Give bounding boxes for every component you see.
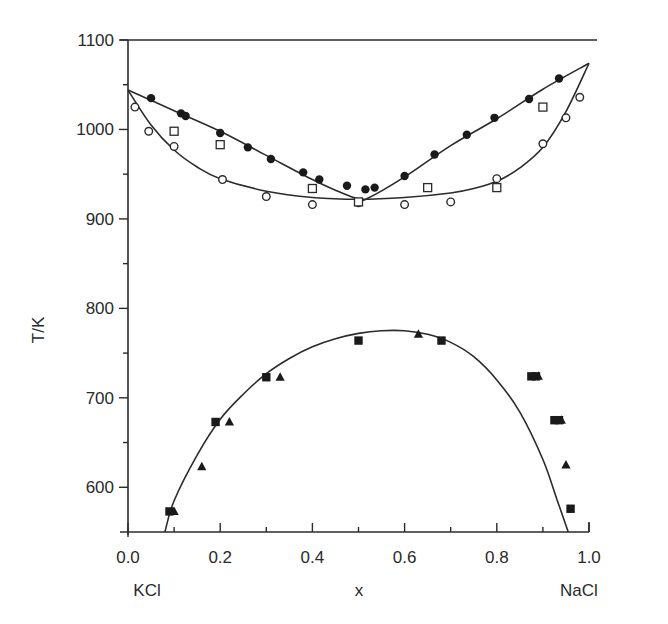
liquidus-line	[128, 63, 589, 200]
filled-square-marker	[211, 418, 219, 426]
open-circle-marker	[493, 175, 501, 183]
filled-circle-marker	[181, 112, 189, 120]
open-circle-marker	[219, 176, 227, 184]
open-square-marker	[170, 127, 178, 135]
filled-triangle-marker	[225, 417, 234, 426]
filled-triangle-marker	[561, 460, 570, 469]
open-circle-marker	[576, 93, 584, 101]
filled-triangle-marker	[197, 462, 206, 471]
filled-circle-marker	[315, 175, 323, 183]
open-square-marker	[493, 184, 501, 192]
y-tick-label: 800	[86, 299, 114, 318]
filled-triangle-marker	[276, 372, 285, 381]
filled-circle-marker	[370, 183, 378, 191]
data-markers	[131, 74, 583, 515]
filled-circle-marker	[343, 182, 351, 190]
x-end-label-kcl: KCl	[133, 581, 160, 600]
y-tick-label: 600	[86, 478, 114, 497]
open-square-marker	[216, 141, 224, 149]
open-circle-marker	[562, 114, 570, 122]
miscibility-gap-line	[165, 330, 568, 532]
filled-circle-marker	[299, 168, 307, 176]
y-tick-label: 700	[86, 389, 114, 408]
filled-square-marker	[262, 373, 270, 381]
filled-circle-marker	[147, 94, 155, 102]
open-circle-marker	[170, 143, 178, 151]
open-square-marker	[308, 184, 316, 192]
y-tick-label: 900	[86, 210, 114, 229]
open-circle-marker	[309, 201, 317, 209]
filled-circle-marker	[555, 74, 563, 82]
open-circle-marker	[131, 103, 139, 111]
x-tick-label: 0.2	[208, 548, 232, 567]
open-circle-marker	[401, 201, 409, 209]
filled-circle-marker	[216, 129, 224, 137]
filled-circle-marker	[400, 172, 408, 180]
y-tick-label: 1100	[77, 31, 114, 50]
fit-curves	[128, 63, 589, 532]
filled-circle-marker	[463, 131, 471, 139]
filled-circle-marker	[267, 155, 275, 163]
phase-diagram-chart: 600700800900100011000.00.20.40.60.81.0 T…	[0, 0, 668, 624]
axes: 600700800900100011000.00.20.40.60.81.0	[76, 31, 601, 567]
y-tick-label: 1000	[76, 120, 114, 139]
x-end-label-nacl: NaCl	[560, 581, 598, 600]
x-axis-label: x	[355, 581, 364, 600]
open-square-marker	[355, 198, 363, 206]
x-tick-label: 0.8	[485, 548, 509, 567]
filled-circle-marker	[361, 185, 369, 193]
solidus-line	[128, 63, 589, 199]
filled-square-marker	[566, 505, 574, 513]
filled-square-marker	[354, 336, 362, 344]
open-circle-marker	[145, 127, 153, 135]
y-axis-label: T/K	[29, 316, 48, 343]
x-tick-label: 1.0	[577, 548, 601, 567]
open-square-marker	[424, 184, 432, 192]
open-circle-marker	[263, 193, 271, 201]
filled-circle-marker	[525, 95, 533, 103]
filled-square-marker	[437, 336, 445, 344]
x-tick-label: 0.4	[301, 548, 325, 567]
x-tick-label: 0.0	[116, 548, 140, 567]
x-tick-label: 0.6	[393, 548, 417, 567]
filled-circle-marker	[430, 150, 438, 158]
open-circle-marker	[539, 140, 547, 148]
open-circle-marker	[447, 198, 455, 206]
filled-circle-marker	[490, 114, 498, 122]
filled-circle-marker	[244, 143, 252, 151]
open-square-marker	[539, 103, 547, 111]
